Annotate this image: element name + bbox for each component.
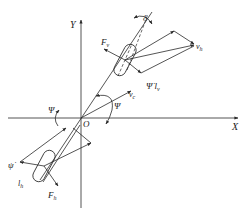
front-velocity-label: vh <box>196 42 203 52</box>
origin-label: O <box>83 119 90 129</box>
cg-velocity-arrow <box>81 91 131 118</box>
psi-right-label: Ψ <box>114 101 121 111</box>
front-force-label: Fv <box>100 37 110 48</box>
y-axis-label: Y <box>70 19 77 30</box>
psi-arc-right <box>96 95 112 124</box>
x-axis-label: X <box>231 121 239 132</box>
rear-velocity-vectors <box>20 128 91 166</box>
cg-velocity-label: vc <box>129 90 136 100</box>
yaw-rate-rear-label: ψ̇ <box>8 160 17 170</box>
rear-length-label: lh <box>18 179 23 189</box>
vehicle-model-diagram: Y X O δ Fv vh Ψ̇ lv vc Ψ Ψ ψ̇ lh Fh <box>0 0 244 216</box>
psi-left-label: Ψ <box>48 105 55 115</box>
rear-force-label: Fh <box>47 190 57 201</box>
yaw-rate-front-label: Ψ̇ lv <box>146 81 160 92</box>
